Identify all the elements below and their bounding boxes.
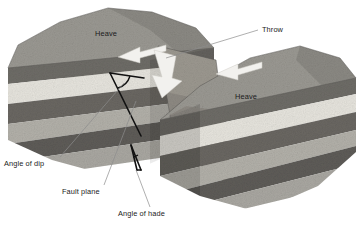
label-angle-of-dip: Angle of dip: [4, 159, 44, 168]
fault-block-diagram: Heave Heave Throw Angle of dip Fault pla…: [0, 0, 362, 229]
label-heave-right: Heave: [235, 92, 257, 101]
label-throw: Throw: [262, 25, 284, 34]
label-heave-left: Heave: [95, 29, 117, 38]
label-fault-plane: Fault plane: [62, 187, 100, 196]
label-angle-of-hade: Angle of hade: [118, 209, 165, 218]
